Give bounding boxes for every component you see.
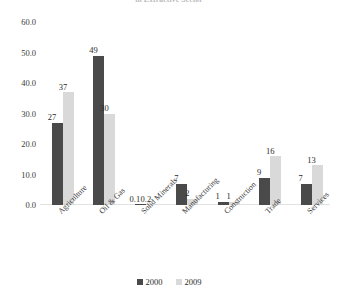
legend-label: 2000 <box>146 277 163 287</box>
y-axis-tick-label: 40.0 <box>21 79 36 88</box>
legend-swatch-icon <box>176 279 182 285</box>
bar-value-label: 7 <box>288 174 314 183</box>
chart-legend: 20002009 <box>0 277 338 287</box>
bar-value-label: 16 <box>257 147 283 156</box>
bar-2000[interactable] <box>52 123 63 205</box>
bar-value-label: 49 <box>80 46 106 55</box>
bar-value-label: 7 <box>163 174 189 183</box>
bar-2000[interactable] <box>301 184 312 205</box>
y-axis: 0.010.020.030.040.050.060.0 <box>0 0 40 296</box>
bar-2000[interactable] <box>259 178 270 205</box>
bar-value-label: 30 <box>91 104 117 113</box>
bar-2000[interactable] <box>93 56 104 205</box>
legend-item-2000[interactable]: 2000 <box>137 277 163 287</box>
bar-chart: in Extractive Sector 0.010.020.030.040.0… <box>0 0 338 296</box>
bar-value-label: 9 <box>246 168 272 177</box>
legend-swatch-icon <box>137 279 143 285</box>
y-axis-tick-label: 30.0 <box>21 110 36 119</box>
chart-title: in Extractive Sector <box>0 0 338 4</box>
bar-group: 713Services <box>294 22 335 205</box>
y-axis-tick-label: 20.0 <box>21 140 36 149</box>
bar-group: 11Construction <box>211 22 252 205</box>
y-axis-tick-label: 0.0 <box>25 201 36 210</box>
bar-group: 4930Oil & Gas <box>86 22 127 205</box>
y-axis-tick-label: 60.0 <box>21 18 36 27</box>
legend-item-2009[interactable]: 2009 <box>176 277 202 287</box>
bar-2009[interactable] <box>63 92 74 205</box>
y-axis-tick-label: 50.0 <box>21 49 36 58</box>
plot-area: 2737Agriculture4930Oil & Gas0.10.2Solid … <box>40 22 330 205</box>
bar-group: 72Manufacturing <box>169 22 210 205</box>
bar-value-label: 37 <box>50 83 76 92</box>
bar-value-label: 13 <box>299 156 325 165</box>
y-axis-tick-label: 10.0 <box>21 171 36 180</box>
bar-value-label: 27 <box>39 113 65 122</box>
legend-label: 2009 <box>185 277 202 287</box>
